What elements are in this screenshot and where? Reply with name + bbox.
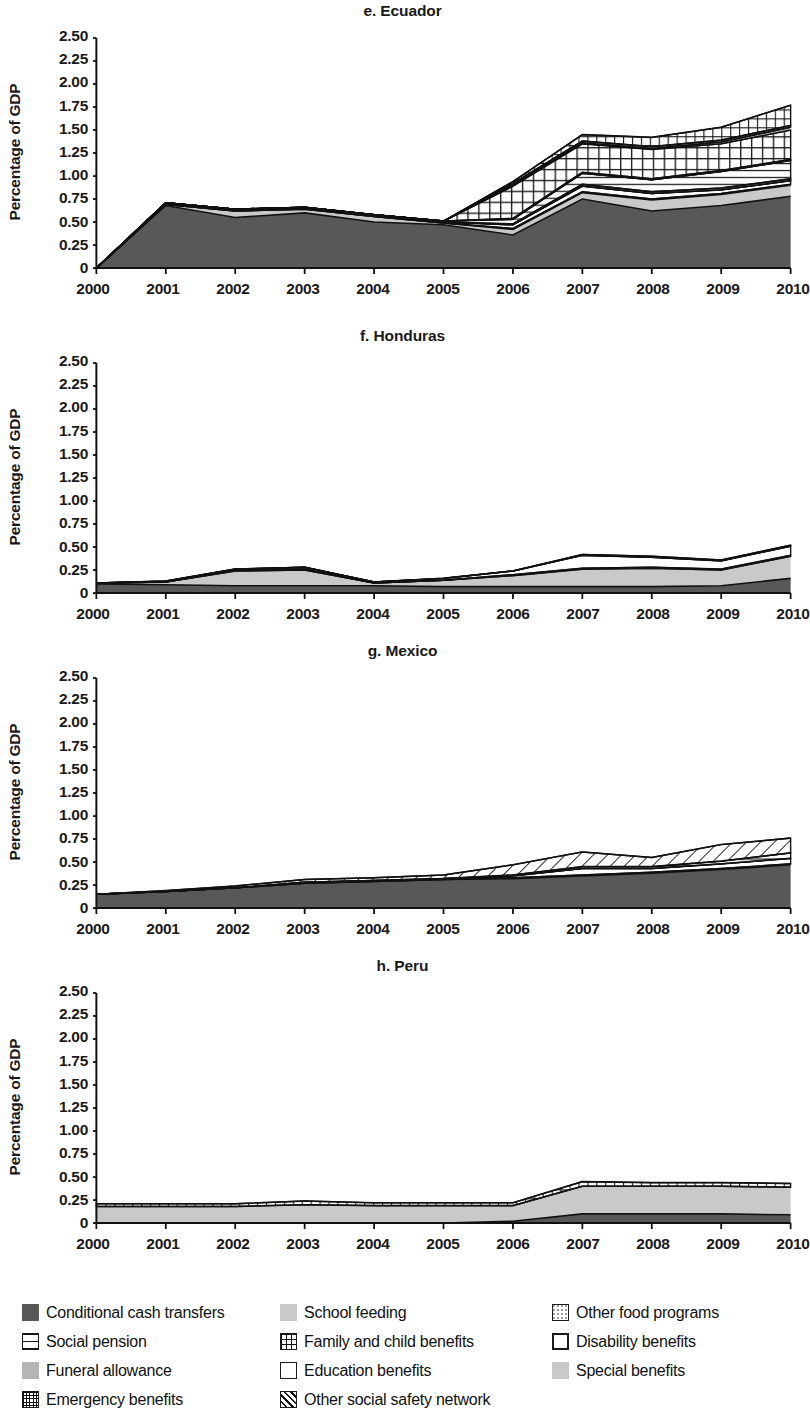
legend-swatch-icon: [552, 1304, 569, 1321]
x-tick-label: 2005: [426, 1235, 459, 1253]
x-tick-label: 2006: [496, 920, 529, 938]
y-tick-label: 1.25: [59, 143, 88, 161]
x-tick-label: 2006: [496, 605, 529, 623]
y-axis-label: Percentage of GDP: [2, 991, 26, 1223]
x-tick-label: 2003: [286, 280, 319, 298]
y-tick-labels: 2.502.252.001.751.501.251.000.750.500.25…: [26, 361, 88, 593]
x-tick-labels: 2000200120022003200420052006200720082009…: [0, 1235, 805, 1263]
legend-label: Other food programs: [576, 1304, 719, 1322]
legend-item[interactable]: Family and child benefits: [280, 1333, 552, 1351]
legend-label: Emergency benefits: [46, 1391, 183, 1409]
panel-plot: [93, 991, 795, 1233]
panel-plot: [93, 361, 795, 603]
legend-item[interactable]: Special benefits: [552, 1362, 685, 1380]
x-tick-label: 2005: [426, 280, 459, 298]
legend-swatch-icon: [552, 1333, 569, 1350]
x-tick-label: 2000: [76, 1235, 109, 1253]
y-tick-label: 0.25: [59, 876, 88, 894]
y-tick-labels: 2.502.252.001.751.501.251.000.750.500.25…: [26, 991, 88, 1223]
y-tick-label: 2.50: [59, 667, 88, 685]
legend-item[interactable]: School feeding: [280, 1304, 552, 1322]
y-tick-label: 2.25: [59, 1005, 88, 1023]
x-tick-label: 2008: [636, 920, 669, 938]
legend-item[interactable]: Emergency benefits: [22, 1391, 280, 1409]
y-tick-label: 2.50: [59, 982, 88, 1000]
x-tick-label: 2008: [636, 605, 669, 623]
y-tick-label: 0: [80, 1214, 88, 1232]
panel-title: g. Mexico: [0, 640, 805, 662]
legend-label: Family and child benefits: [304, 1333, 474, 1351]
y-tick-label: 2.00: [59, 1028, 88, 1046]
legend-item[interactable]: Other social safety network: [280, 1391, 552, 1409]
y-tick-label: 1.50: [59, 760, 88, 778]
y-tick-label: 2.00: [59, 713, 88, 731]
legend-swatch-icon: [552, 1362, 569, 1379]
y-tick-label: 2.50: [59, 352, 88, 370]
y-tick-label: 0.75: [59, 1144, 88, 1162]
y-tick-label: 2.25: [59, 690, 88, 708]
plot-area: [93, 676, 795, 918]
panel-plot: [93, 676, 795, 918]
y-tick-label: 1.00: [59, 806, 88, 824]
x-tick-label: 2010: [776, 1235, 809, 1253]
y-tick-label: 1.50: [59, 120, 88, 138]
legend-label: Social pension: [46, 1333, 147, 1351]
plot-row: Percentage of GDP 2.502.252.001.751.501.…: [0, 361, 805, 605]
y-tick-labels: 2.502.252.001.751.501.251.000.750.500.25…: [26, 36, 88, 268]
x-tick-label: 2010: [776, 920, 809, 938]
y-tick-label: 1.00: [59, 166, 88, 184]
legend-label: Funeral allowance: [46, 1362, 172, 1380]
x-tick-label: 2004: [356, 605, 389, 623]
x-tick-label: 2001: [146, 280, 179, 298]
plot-row: Percentage of GDP 2.502.252.001.751.501.…: [0, 991, 805, 1235]
plot-row: Percentage of GDP 2.502.252.001.751.501.…: [0, 676, 805, 920]
x-tick-label: 2007: [566, 920, 599, 938]
legend-swatch-icon: [280, 1333, 297, 1350]
legend-item[interactable]: Education benefits: [280, 1362, 552, 1380]
plot-area: [93, 36, 795, 278]
chart-panel: g. Mexico Percentage of GDP 2.502.252.00…: [0, 640, 805, 948]
x-tick-label: 2004: [356, 280, 389, 298]
x-tick-label: 2007: [566, 280, 599, 298]
y-tick-label: 1.50: [59, 1075, 88, 1093]
y-tick-label: 0: [80, 584, 88, 602]
legend-item[interactable]: Disability benefits: [552, 1333, 696, 1351]
y-tick-label: 1.00: [59, 491, 88, 509]
x-tick-labels: 2000200120022003200420052006200720082009…: [0, 280, 805, 308]
y-tick-label: 0.75: [59, 829, 88, 847]
y-axis-label: Percentage of GDP: [2, 361, 26, 593]
y-tick-label: 1.25: [59, 1098, 88, 1116]
x-tick-label: 2003: [286, 920, 319, 938]
legend-swatch-icon: [22, 1391, 39, 1408]
y-tick-label: 0.50: [59, 538, 88, 556]
legend-row: Conditional cash transfers School feedin…: [22, 1298, 805, 1327]
y-tick-label: 0: [80, 899, 88, 917]
x-tick-label: 2001: [146, 1235, 179, 1253]
panel-title: f. Honduras: [0, 325, 805, 347]
x-tick-label: 2009: [706, 1235, 739, 1253]
legend-item[interactable]: Other food programs: [552, 1304, 719, 1322]
y-tick-label: 2.25: [59, 375, 88, 393]
chart-panel: f. Honduras Percentage of GDP 2.502.252.…: [0, 325, 805, 633]
legend-label: Education benefits: [304, 1362, 431, 1380]
x-tick-label: 2007: [566, 605, 599, 623]
x-tick-label: 2006: [496, 1235, 529, 1253]
legend-item[interactable]: Conditional cash transfers: [22, 1304, 280, 1322]
x-tick-labels: 2000200120022003200420052006200720082009…: [0, 920, 805, 948]
x-tick-label: 2002: [216, 280, 249, 298]
plot-area: [93, 991, 795, 1233]
y-tick-label: 1.25: [59, 468, 88, 486]
x-tick-label: 2000: [76, 280, 109, 298]
x-tick-label: 2005: [426, 920, 459, 938]
legend-item[interactable]: Funeral allowance: [22, 1362, 280, 1380]
y-axis-label: Percentage of GDP: [2, 36, 26, 268]
legend-item[interactable]: Social pension: [22, 1333, 280, 1351]
x-tick-label: 2010: [776, 605, 809, 623]
plot-row: Percentage of GDP 2.502.252.001.751.501.…: [0, 36, 805, 280]
panel-title: h. Peru: [0, 955, 805, 977]
legend-row: Emergency benefits Other social safety n…: [22, 1385, 805, 1414]
y-axis-label: Percentage of GDP: [2, 676, 26, 908]
legend-row: Social pension Family and child benefits…: [22, 1327, 805, 1356]
y-tick-label: 0.50: [59, 853, 88, 871]
y-tick-label: 2.50: [59, 27, 88, 45]
